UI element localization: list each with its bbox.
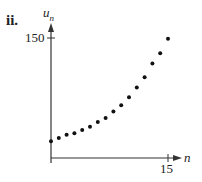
data-point	[150, 62, 154, 66]
data-point	[80, 128, 84, 132]
data-point	[57, 136, 61, 140]
data-point	[49, 139, 53, 143]
data-point	[119, 103, 123, 107]
data-point	[65, 133, 69, 137]
x-axis	[51, 154, 182, 162]
data-point	[72, 131, 76, 135]
data-point	[158, 51, 162, 55]
x-axis-arrow-icon	[173, 155, 182, 161]
data-point	[88, 125, 92, 129]
data-point	[96, 120, 100, 124]
data-point	[143, 75, 147, 79]
data-point	[104, 116, 108, 120]
chart-plot	[0, 0, 202, 182]
data-point	[166, 37, 170, 41]
data-point	[135, 86, 139, 90]
data-points	[49, 37, 170, 143]
data-point	[127, 95, 131, 99]
data-point	[111, 110, 115, 114]
y-axis-arrow-icon	[48, 23, 54, 32]
